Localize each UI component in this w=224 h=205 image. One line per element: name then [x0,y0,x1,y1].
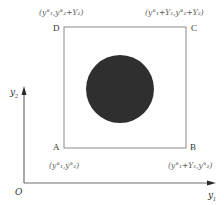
diagram-canvas: (y°₁,y°₂+Y₂) D (y°₁+Y₁,y°₂+Y₂) C A (y°₁,… [0,0,224,205]
x-axis-label: y1 [208,191,216,200]
corner-a-coordinate: (y°₁,y°₂) [49,162,79,170]
corner-d-coordinate: (y°₁,y°₂+Y₂) [39,9,83,17]
corner-b-label: B [190,143,196,152]
corner-c-coordinate: (y°₁+Y₁,y°₂+Y₂) [145,9,204,17]
filled-circle [86,55,154,123]
corner-c-label: C [191,24,197,33]
corner-a-label: A [53,143,60,152]
x-axis-arrow-icon [207,181,216,186]
y-axis-arrow-icon [22,86,27,95]
corner-d-label: D [53,24,60,33]
corner-b-coordinate: (y°₁+Y₁,y°₂) [168,162,212,170]
origin-label: O [15,188,22,197]
y-axis-label: y2 [10,88,18,97]
y-axis-label-subscript: 2 [15,93,18,99]
x-axis-label-subscript: 1 [213,196,216,202]
